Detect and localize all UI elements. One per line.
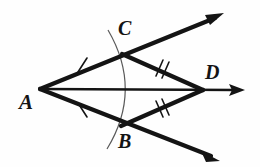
geometry-figure: A B C D	[0, 0, 260, 167]
segment-bd-line	[121, 90, 203, 126]
vertex-label-b: B	[118, 131, 131, 151]
ray-ab-arrowhead-icon	[201, 151, 220, 162]
ray-ac-arrowhead-icon	[205, 13, 224, 25]
vertex-label-a: A	[19, 92, 33, 113]
ray-ad-line	[40, 89, 236, 90]
vertex-label-d: D	[205, 62, 219, 82]
vertex-label-c: C	[118, 18, 131, 38]
